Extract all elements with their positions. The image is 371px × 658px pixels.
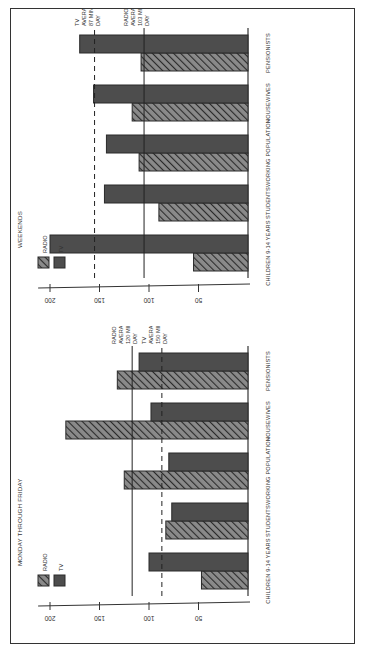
svg-text:DAY: DAY [144, 15, 150, 26]
average-annotation: RADIOAVERAGE103 MINS/DAY [123, 8, 150, 26]
average-annotation: TVAVERAGE150 MINS/DAY [141, 326, 168, 344]
average-annotation: RADIOAVERAGE120 MINS/DAY [111, 326, 138, 344]
average-annotation: TVAVERAGE87 MINS/DAY [74, 8, 101, 26]
y-axis: 50100150200 [38, 284, 250, 304]
tv-bar [106, 135, 248, 153]
radio-bar [124, 471, 248, 489]
svg-text:DAY: DAY [162, 333, 168, 344]
category-label: HOUSEWIVES [265, 83, 271, 123]
category-label: PENSIONISTS [265, 33, 271, 73]
bar-chart-svg: 50100150200CHILDREN 9-14 YEARSSTUDENTSWO… [0, 326, 345, 644]
svg-text:TV: TV [141, 337, 147, 344]
tv-bar [169, 453, 248, 471]
category-label: PENSIONISTS [265, 351, 271, 391]
category-label: STUDENTS [265, 187, 271, 219]
legend-tv-swatch [54, 575, 65, 586]
legend-radio-swatch [38, 575, 49, 586]
svg-text:DAY: DAY [132, 333, 138, 344]
radio-bar [66, 421, 248, 439]
tv-bar [104, 185, 248, 203]
category-label: WORKING POPULATION [265, 437, 271, 505]
svg-text:RADIO: RADIO [42, 235, 48, 253]
bar-group [104, 185, 248, 221]
tv-bar [94, 85, 248, 103]
category-label: WORKING POPULATION [265, 119, 271, 187]
svg-text:TV: TV [58, 564, 64, 571]
svg-text:200: 200 [44, 297, 55, 304]
svg-text:TV: TV [58, 246, 64, 253]
category-label: CHILDREN 9-14 YEARS [265, 220, 271, 286]
panel-weekend: 50100150200CHILDREN 9-14 YEARSSTUDENTSWO… [0, 8, 345, 326]
svg-text:50: 50 [195, 297, 203, 304]
radio-bar [132, 103, 248, 121]
tv-bar [139, 353, 248, 371]
svg-text:50: 50 [195, 615, 203, 622]
svg-text:150 MINS/: 150 MINS/ [155, 326, 161, 344]
svg-text:RADIO: RADIO [123, 8, 129, 26]
category-label: STUDENTS [265, 505, 271, 537]
legend-tv-swatch [54, 257, 65, 268]
panel-title: MONDAY THROUGH FRIDAY [16, 478, 23, 566]
panel-title: WEEKENDS [16, 211, 23, 248]
chart-stage: 50100150200CHILDREN 9-14 YEARSSTUDENTSWO… [0, 0, 371, 658]
radio-bar [194, 253, 248, 271]
y-axis: 50100150200 [38, 602, 250, 622]
bar-group [94, 85, 248, 121]
radio-bar [117, 371, 248, 389]
svg-text:AVERAGE: AVERAGE [118, 326, 124, 344]
tv-bar [80, 35, 248, 53]
svg-text:150: 150 [94, 615, 105, 622]
bar-group [149, 553, 248, 589]
legend-radio-swatch [38, 257, 49, 268]
tv-bar [50, 235, 248, 253]
rotated-chart-sheet: 50100150200CHILDREN 9-14 YEARSSTUDENTSWO… [0, 0, 371, 658]
svg-text:103 MINS/: 103 MINS/ [137, 8, 143, 26]
bar-group [124, 453, 248, 489]
tv-bar [151, 403, 248, 421]
radio-bar [201, 571, 248, 589]
bar-chart-svg: 50100150200CHILDREN 9-14 YEARSSTUDENTSWO… [0, 8, 345, 326]
svg-text:TV: TV [74, 19, 80, 26]
radio-bar [159, 203, 248, 221]
svg-text:DAY: DAY [95, 15, 101, 26]
legend: RADIOTV [38, 553, 65, 586]
svg-text:AVERAGE: AVERAGE [148, 326, 154, 344]
radio-bar [166, 521, 248, 539]
bar-group [166, 503, 248, 539]
radio-bar [141, 53, 248, 71]
svg-text:87 MINS/: 87 MINS/ [88, 8, 94, 26]
svg-text:RADIO: RADIO [42, 553, 48, 571]
svg-text:150: 150 [94, 297, 105, 304]
bar-group [106, 135, 248, 171]
category-label: CHILDREN 9-14 YEARS [265, 538, 271, 604]
tv-bar [172, 503, 248, 521]
tv-bar [149, 553, 248, 571]
svg-text:RADIO: RADIO [111, 326, 117, 344]
svg-text:120 MINS/: 120 MINS/ [125, 326, 131, 344]
svg-text:100: 100 [143, 297, 154, 304]
svg-text:100: 100 [143, 615, 154, 622]
panel-weekday: 50100150200CHILDREN 9-14 YEARSSTUDENTSWO… [0, 326, 345, 644]
radio-bar [139, 153, 248, 171]
svg-text:AVERAGE: AVERAGE [130, 8, 136, 26]
category-label: HOUSEWIVES [265, 401, 271, 441]
svg-text:200: 200 [44, 615, 55, 622]
svg-text:AVERAGE: AVERAGE [81, 8, 87, 26]
bar-group [50, 235, 248, 271]
bar-group [117, 353, 248, 389]
bar-group [66, 403, 248, 439]
bar-group [80, 35, 248, 71]
